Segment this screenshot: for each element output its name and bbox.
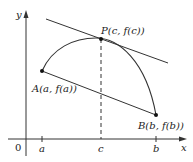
origin-label: 0 — [15, 142, 21, 153]
point-A-marker — [40, 69, 44, 73]
y-axis — [24, 10, 29, 156]
x-axis-label: x — [181, 142, 187, 153]
tick-label-a: a — [39, 143, 45, 154]
point-B-marker — [154, 113, 158, 117]
x-axis — [8, 137, 187, 142]
mean-value-theorem-diagram: y x 0 a c b A(a, f(a)) P(c, f(c)) B(b, f… — [0, 0, 193, 162]
point-P-marker — [99, 37, 103, 41]
y-axis-label: y — [15, 9, 22, 20]
point-A-label: A(a, f(a)) — [31, 83, 77, 94]
x-axis-arrow-icon — [179, 137, 187, 142]
point-P-label: P(c, f(c)) — [100, 25, 145, 36]
function-curve — [42, 38, 156, 115]
tick-label-b: b — [153, 143, 159, 154]
tick-label-c: c — [98, 143, 104, 154]
point-B-label: B(b, f(b)) — [137, 120, 184, 131]
y-axis-arrow-icon — [24, 10, 29, 18]
